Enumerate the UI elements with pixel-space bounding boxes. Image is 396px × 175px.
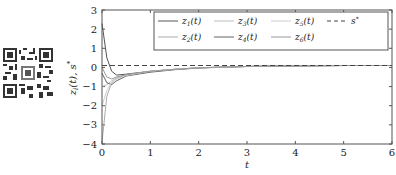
- x-tick-label: 0: [99, 147, 105, 158]
- x-tick-label: 5: [340, 147, 346, 158]
- series-line: [102, 66, 392, 85]
- x-tick-label: 6: [389, 147, 395, 158]
- legend-label: z1(t): [181, 16, 202, 27]
- line-chart: zi(t), s* 3210−1−2−3−4 0123456 t z1(t)z2…: [0, 0, 396, 175]
- y-tick-label: 2: [91, 24, 97, 35]
- x-tick-label: 2: [195, 147, 201, 158]
- y-tick-label: 0: [91, 62, 97, 73]
- legend-label: z5(t): [294, 16, 315, 27]
- legend-label: z4(t): [237, 32, 258, 43]
- y-axis-label: zi(t), s*: [66, 60, 80, 96]
- x-axis-label: t: [245, 159, 250, 170]
- y-tick-label: −1: [82, 81, 97, 92]
- x-tick-label: 3: [244, 147, 250, 158]
- series-line: [102, 66, 392, 79]
- y-tick-label: −3: [82, 119, 97, 130]
- legend-label: z2(t): [181, 32, 202, 43]
- series-line: [102, 66, 392, 143]
- legend-label: z3(t): [237, 16, 258, 27]
- y-tick-label: 3: [91, 5, 97, 16]
- y-tick-label: −4: [82, 139, 97, 150]
- x-tick-label: 1: [147, 147, 153, 158]
- y-tick-label: −2: [82, 100, 97, 111]
- legend-label: z6(t): [294, 32, 315, 43]
- legend: z1(t)z2(t)z3(t)z4(t)z5(t)z6(t)s*: [154, 12, 388, 50]
- series-line: [102, 66, 392, 87]
- y-tick-label: 1: [91, 43, 97, 54]
- x-tick-label: 4: [292, 147, 298, 158]
